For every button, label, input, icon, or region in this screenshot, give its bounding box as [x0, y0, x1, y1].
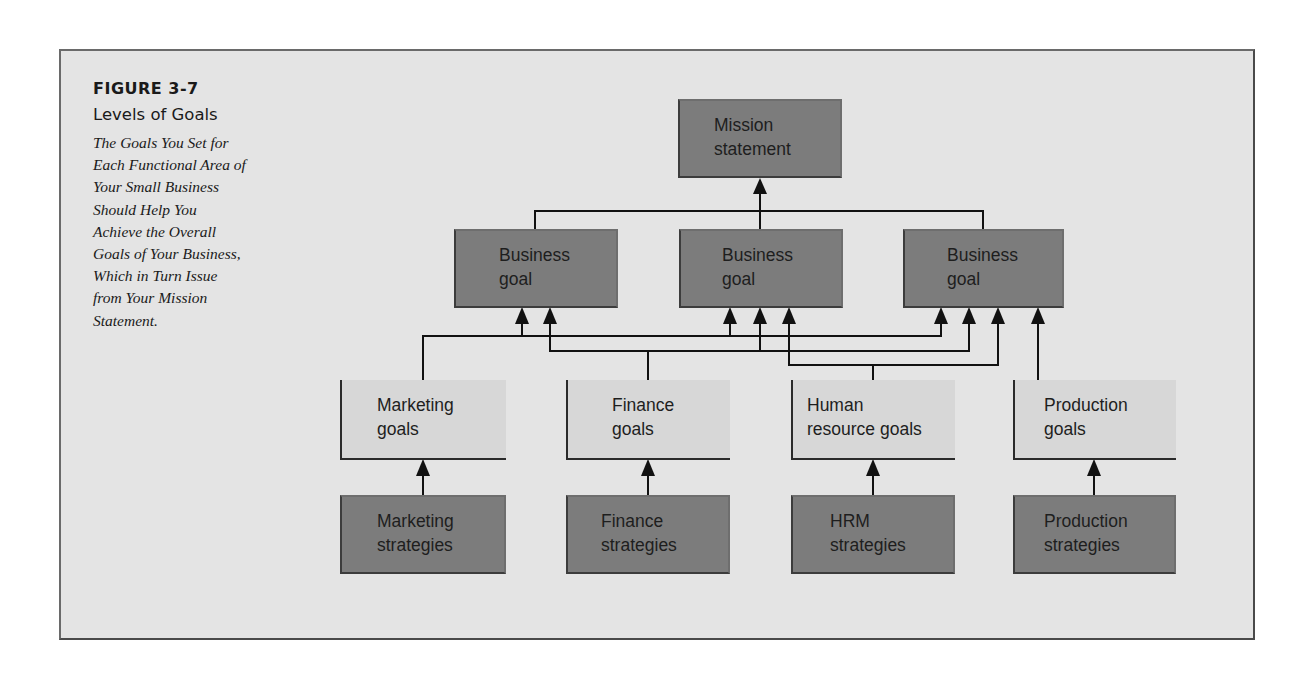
production-strategies-box: Production strategies — [1013, 495, 1176, 574]
finance-goals-box: Finance goals — [566, 380, 730, 460]
human-resource-goals-box: Human resource goals — [791, 380, 955, 460]
mission-statement-box: Mission statement — [678, 99, 842, 178]
figure-title: Levels of Goals — [93, 104, 293, 126]
figure-number: FIGURE 3-7 — [93, 79, 293, 99]
production-goals-box: Production goals — [1013, 380, 1176, 460]
marketing-goals-box: Marketing goals — [340, 380, 506, 460]
marketing-strategies-box: Marketing strategies — [340, 495, 506, 574]
business-goal-box-1: Business goal — [454, 229, 618, 308]
business-goal-box-2: Business goal — [679, 229, 843, 308]
finance-strategies-box: Finance strategies — [566, 495, 730, 574]
figure-caption: FIGURE 3-7 Levels of Goals The Goals You… — [93, 79, 293, 332]
figure-description: The Goals You Set for Each Functional Ar… — [93, 132, 293, 332]
business-goal-box-3: Business goal — [903, 229, 1064, 308]
hrm-strategies-box: HRM strategies — [791, 495, 955, 574]
